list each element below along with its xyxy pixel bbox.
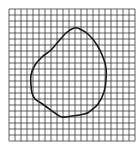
- diagram-canvas: [0, 0, 137, 151]
- irregular-closed-shape: [31, 28, 107, 117]
- grid-diagram: [0, 0, 137, 151]
